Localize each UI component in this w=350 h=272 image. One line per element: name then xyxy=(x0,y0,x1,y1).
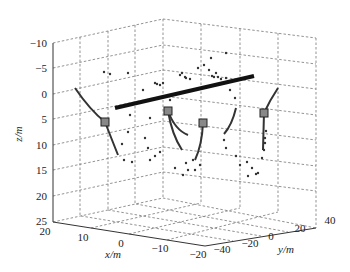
svg-text:−10: −10 xyxy=(151,242,169,254)
svg-text:5: 5 xyxy=(42,113,48,125)
svg-text:40: 40 xyxy=(325,214,337,226)
svg-text:0: 0 xyxy=(42,88,48,100)
svg-text:−5: −5 xyxy=(35,62,47,74)
svg-text:−20: −20 xyxy=(189,248,207,260)
3d-scatter-plot: −10 −5 0 5 10 15 20 25 z/m 20 10 0 −10 −… xyxy=(0,0,350,272)
svg-text:10: 10 xyxy=(36,139,48,151)
axes xyxy=(53,43,316,246)
y-axis-label: y/m xyxy=(277,243,294,255)
svg-text:10: 10 xyxy=(78,231,90,243)
grid-back xyxy=(53,19,316,241)
z-axis-label: z/m xyxy=(12,126,24,142)
z-axis-ticks: −10 −5 0 5 10 15 20 25 xyxy=(30,37,48,227)
svg-text:−40: −40 xyxy=(213,243,231,255)
svg-text:20: 20 xyxy=(295,222,307,234)
svg-text:20: 20 xyxy=(36,190,48,202)
svg-text:0: 0 xyxy=(268,230,274,242)
thick-line-series xyxy=(115,76,254,108)
svg-text:−10: −10 xyxy=(30,37,48,49)
svg-text:−20: −20 xyxy=(241,237,259,249)
x-axis-label: x/m xyxy=(104,248,121,260)
scatter-points xyxy=(103,52,267,177)
svg-text:15: 15 xyxy=(36,164,48,176)
square-markers xyxy=(101,107,268,127)
svg-text:20: 20 xyxy=(40,225,52,237)
